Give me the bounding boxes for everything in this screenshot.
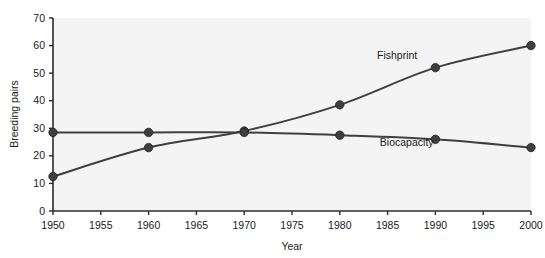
x-tick-label: 1970	[233, 219, 257, 231]
y-tick-label: 40	[33, 94, 45, 106]
series-label-fishprint: Fishprint	[377, 49, 417, 61]
plot-background-group	[53, 18, 531, 211]
data-point-marker	[527, 143, 535, 151]
x-tick-label: 1960	[137, 219, 161, 231]
data-point-marker	[49, 172, 57, 180]
y-tick-label: 20	[33, 149, 45, 161]
series-label-biocapacity: Biocapacity	[380, 136, 434, 148]
line-chart: 010203040506070 195019551960196519701975…	[0, 0, 545, 258]
data-point-marker	[336, 131, 344, 139]
x-tick-label: 1995	[472, 219, 496, 231]
y-axis-ticks: 010203040506070	[33, 12, 53, 217]
y-tick-label: 10	[33, 177, 45, 189]
y-tick-label: 30	[33, 122, 45, 134]
data-point-marker	[240, 128, 248, 136]
x-tick-label: 1980	[328, 219, 352, 231]
x-tick-label: 1985	[376, 219, 400, 231]
data-point-marker	[144, 143, 152, 151]
y-axis-title: Breeding pairs	[8, 80, 20, 148]
y-tick-label: 70	[33, 12, 45, 24]
x-tick-label: 1990	[424, 219, 448, 231]
x-tick-label: 1950	[41, 219, 65, 231]
x-axis-ticks: 1950195519601965197019751980198519901995…	[41, 211, 543, 231]
y-tick-label: 0	[39, 205, 45, 217]
y-tick-label: 60	[33, 39, 45, 51]
x-tick-label: 1965	[185, 219, 209, 231]
x-axis-title: Year	[281, 240, 303, 252]
x-tick-label: 2000	[519, 219, 543, 231]
data-point-marker	[431, 63, 439, 71]
data-point-marker	[336, 101, 344, 109]
data-point-marker	[527, 41, 535, 49]
data-point-marker	[49, 128, 57, 136]
y-tick-label: 50	[33, 67, 45, 79]
chart-canvas: 010203040506070 195019551960196519701975…	[0, 0, 545, 258]
plot-area-background	[53, 18, 531, 211]
x-tick-label: 1955	[89, 219, 113, 231]
x-tick-label: 1975	[280, 219, 304, 231]
data-point-marker	[144, 128, 152, 136]
